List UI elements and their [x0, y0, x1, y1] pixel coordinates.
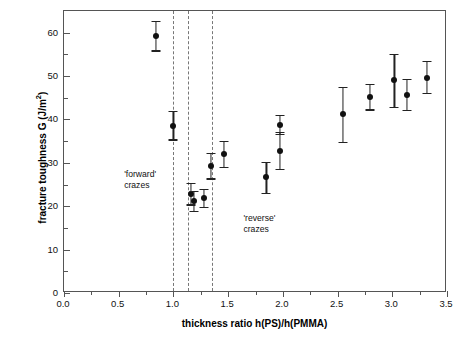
x-axis-tick-label: 0.0	[56, 298, 69, 309]
data-marker	[263, 174, 269, 180]
data-marker	[201, 195, 207, 201]
annotation-label-reverse-crazes: 'reverse' crazes	[243, 213, 275, 235]
error-bar-cap-lower	[275, 134, 284, 135]
x-axis-tick-label: 3.5	[439, 298, 452, 309]
error-bar-cap-lower	[262, 193, 271, 194]
error-bar-cap-upper	[219, 141, 228, 142]
y-axis-tick	[64, 33, 70, 34]
x-axis-tick	[173, 291, 174, 297]
error-bar-cap-lower	[219, 167, 228, 168]
x-axis-title: thickness ratio h(PS)/h(PMMA)	[63, 318, 446, 329]
plot-area: 'forward' crazes'reverse' crazes	[63, 10, 446, 292]
y-axis-minor-tick	[64, 141, 68, 142]
dashed-divider-line	[188, 11, 189, 291]
y-axis-tick-label: 30	[40, 156, 58, 167]
y-axis-tick	[64, 206, 70, 207]
x-axis-tick-label: 2.5	[330, 298, 343, 309]
error-bar-cap-lower	[200, 207, 209, 208]
x-axis-tick-label: 1.5	[221, 298, 234, 309]
x-axis-tick	[119, 291, 120, 297]
y-axis-tick-label: 10	[40, 243, 58, 254]
error-bar-cap-upper	[190, 191, 199, 192]
y-axis-tick	[64, 293, 70, 294]
error-bar-cap-lower	[169, 139, 178, 140]
data-marker	[221, 151, 227, 157]
error-bar-cap-upper	[206, 153, 215, 154]
data-marker	[391, 77, 397, 83]
x-axis-minor-tick	[256, 291, 257, 295]
annotation-label-forward-crazes: 'forward' crazes	[124, 169, 156, 191]
error-bar-cap-upper	[186, 183, 195, 184]
error-bar-cap-upper	[262, 162, 271, 163]
error-bar-cap-lower	[206, 178, 215, 179]
data-marker	[153, 33, 159, 39]
data-marker	[424, 75, 430, 81]
x-axis-minor-tick	[201, 291, 202, 295]
x-axis-tick	[283, 291, 284, 297]
y-axis-minor-tick	[64, 54, 68, 55]
x-axis-tick	[228, 291, 229, 297]
x-axis-tick-label: 1.0	[166, 298, 179, 309]
error-bar-cap-upper	[169, 111, 178, 112]
data-marker	[208, 163, 214, 169]
error-bar-cap-upper	[423, 61, 432, 62]
error-bar-cap-lower	[390, 107, 399, 108]
error-bar-cap-lower	[423, 93, 432, 94]
data-marker	[277, 148, 283, 154]
y-axis-tick-label: 60	[40, 26, 58, 37]
y-axis-tick	[64, 163, 70, 164]
data-marker	[277, 122, 283, 128]
figure: fracture toughness G (J/m2) thickness ra…	[0, 0, 462, 346]
x-axis-tick	[392, 291, 393, 297]
y-axis-tick-label: 50	[40, 70, 58, 81]
error-bar-cap-upper	[390, 54, 399, 55]
data-marker	[170, 123, 176, 129]
data-marker	[191, 198, 197, 204]
data-marker	[404, 92, 410, 98]
y-axis-minor-tick	[64, 185, 68, 186]
error-bar-cap-upper	[366, 84, 375, 85]
x-axis-tick	[447, 291, 448, 297]
y-axis-tick	[64, 119, 70, 120]
y-axis-title-tail: )	[37, 92, 48, 95]
error-bar-cap-lower	[402, 110, 411, 111]
y-axis-tick-label: 20	[40, 200, 58, 211]
error-bar-cap-lower	[339, 142, 348, 143]
error-bar-cap-upper	[402, 79, 411, 80]
y-axis-minor-tick	[64, 98, 68, 99]
data-marker	[367, 94, 373, 100]
x-axis-minor-tick	[91, 291, 92, 295]
error-bar-cap-upper	[275, 115, 284, 116]
y-axis-tick	[64, 76, 70, 77]
error-bar-cap-lower	[366, 109, 375, 110]
error-bar-cap-upper	[151, 21, 160, 22]
x-axis-tick-label: 3.0	[385, 298, 398, 309]
dashed-divider-line	[173, 11, 174, 291]
error-bar-cap-lower	[190, 211, 199, 212]
x-axis-minor-tick	[146, 291, 147, 295]
y-axis-title-exponent: 2	[34, 95, 43, 99]
error-bar-cap-upper	[339, 87, 348, 88]
y-axis-minor-tick	[64, 271, 68, 272]
data-marker	[340, 111, 346, 117]
x-axis-minor-tick	[310, 291, 311, 295]
dashed-divider-line	[212, 11, 213, 291]
x-axis-tick	[64, 291, 65, 297]
y-axis-minor-tick	[64, 228, 68, 229]
x-axis-tick	[338, 291, 339, 297]
y-axis-tick-label: 40	[40, 113, 58, 124]
error-bar-cap-lower	[151, 50, 160, 51]
error-bar-cap-upper	[200, 189, 209, 190]
y-axis-tick-label: 0	[40, 287, 58, 298]
x-axis-tick-label: 2.0	[275, 298, 288, 309]
x-axis-minor-tick	[420, 291, 421, 295]
x-axis-tick-label: 0.5	[111, 298, 124, 309]
x-axis-minor-tick	[365, 291, 366, 295]
error-bar-cap-lower	[275, 169, 284, 170]
y-axis-tick	[64, 250, 70, 251]
